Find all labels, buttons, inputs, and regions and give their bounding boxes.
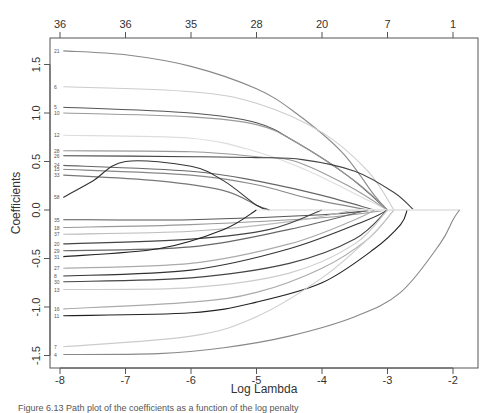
series-label: 31 (54, 254, 60, 260)
series-label: 7 (54, 344, 57, 350)
series-label: 21 (54, 48, 60, 54)
y-tick-label: 1.5 (30, 57, 42, 72)
figure-caption: Figure 6.13 Path plot of the coefficient… (18, 403, 299, 413)
coefficient-path-16 (63, 210, 394, 309)
series-label: 30 (54, 279, 60, 285)
series-label: 35 (54, 217, 60, 223)
x-axis-title: Log Lambda (231, 382, 298, 396)
coefficient-path-chart: 2165101228262415335835183720293127830131… (0, 0, 497, 413)
coefficient-path-5 (63, 107, 387, 210)
y-axis: -1.5-1.0-0.50.00.51.01.5 (30, 57, 50, 365)
coefficient-path-37 (63, 210, 355, 234)
series-label: 16 (54, 306, 60, 312)
x-tick-label: -7 (121, 374, 131, 386)
y-tick-label: -1.0 (30, 298, 42, 317)
top-tick-label: 28 (250, 18, 262, 30)
series-label: 18 (54, 225, 60, 231)
coefficient-paths (63, 51, 459, 355)
coefficient-path-4 (63, 210, 459, 355)
top-tick-label: 35 (185, 18, 197, 30)
series-label: 10 (54, 110, 60, 116)
series-label: 27 (54, 265, 60, 271)
series-labels: 2165101228262415335835183720293127830131… (54, 48, 60, 358)
series-label: 6 (54, 84, 57, 90)
series-label: 37 (54, 231, 60, 237)
coefficient-path-58 (63, 161, 269, 210)
y-tick-label: 0.0 (30, 202, 42, 217)
series-label: 12 (54, 132, 60, 138)
coefficient-path-12 (63, 135, 387, 210)
series-label: 58 (54, 194, 60, 200)
coefficient-path-28 (63, 151, 387, 210)
y-axis-title: Coefficients (9, 172, 23, 234)
y-tick-label: -1.5 (30, 346, 42, 365)
x-tick-label: -2 (448, 374, 458, 386)
coefficient-path-30 (63, 210, 387, 282)
series-label: 33 (54, 172, 60, 178)
plot-frame (50, 38, 478, 368)
y-tick-label: -0.5 (30, 249, 42, 268)
series-label: 26 (54, 153, 60, 159)
top-tick-label: 1 (450, 18, 456, 30)
top-tick-label: 36 (119, 18, 131, 30)
x-tick-label: -4 (317, 374, 327, 386)
coefficient-path-24 (63, 165, 374, 210)
top-tick-label: 7 (384, 18, 390, 30)
y-tick-label: 1.0 (30, 105, 42, 120)
series-label: 11 (54, 313, 59, 319)
x-tick-label: -6 (186, 374, 196, 386)
coefficient-path-10 (63, 113, 387, 210)
y-tick-label: 0.5 (30, 154, 42, 169)
top-x-axis: 363635282071 (54, 18, 456, 38)
top-tick-label: 20 (316, 18, 328, 30)
top-tick-label: 36 (54, 18, 66, 30)
series-label: 4 (54, 352, 57, 358)
series-label: 13 (54, 287, 60, 293)
coefficient-path-7 (63, 210, 394, 347)
x-tick-label: -8 (55, 374, 65, 386)
x-tick-label: -3 (383, 374, 393, 386)
series-label: 20 (54, 241, 60, 247)
